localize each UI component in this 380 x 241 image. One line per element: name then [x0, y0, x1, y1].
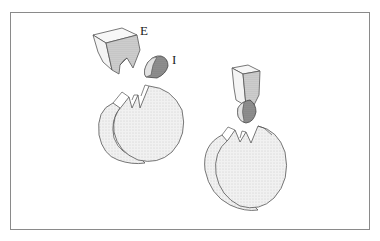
receptor-disc-right: [205, 126, 287, 210]
receptor-disc-left: [99, 85, 184, 164]
enzyme-fragment-e: [93, 28, 140, 74]
inhibitor-i: [144, 56, 168, 78]
label-inhibitor: I: [172, 53, 176, 66]
enzyme-inhibitor-diagram: [0, 0, 380, 241]
label-enzyme: E: [140, 24, 148, 37]
enzyme-inhibitor-complex: [232, 65, 260, 123]
